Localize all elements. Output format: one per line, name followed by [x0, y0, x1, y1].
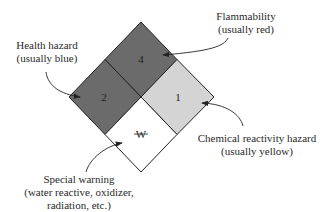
reactivity-arrow: [202, 103, 243, 126]
reactivity-label: Chemical reactivity hazard (usually yell…: [192, 132, 322, 158]
reactivity-value: 1: [175, 91, 181, 103]
flammability-value: 4: [138, 53, 144, 65]
flammability-label: Flammability (usually red): [196, 10, 296, 36]
special-label: Special warning (water reactive, oxidize…: [14, 173, 144, 212]
health-label: Health hazard (usually blue): [2, 39, 92, 65]
health-value: 2: [101, 91, 107, 103]
hazard-diamond-diagram: 4 2 1 W Flammability (usually red) Healt…: [0, 0, 325, 212]
special-arrow: [86, 143, 122, 172]
flammability-arrow: [163, 38, 228, 55]
